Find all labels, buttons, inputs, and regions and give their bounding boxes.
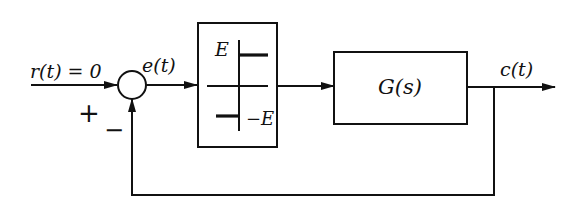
input-label: r(t) = 0 bbox=[30, 60, 102, 82]
control-block-diagram: r(t) = 0 + − e(t) E −E G(s) c(t) bbox=[0, 0, 575, 214]
feedback-line bbox=[132, 87, 494, 195]
output-signal: c(t) bbox=[467, 58, 555, 87]
plus-sign: + bbox=[78, 98, 100, 128]
feedback-path bbox=[132, 87, 494, 195]
error-signal: e(t) bbox=[142, 54, 197, 85]
upper-level-label: E bbox=[214, 38, 229, 60]
minus-sign: − bbox=[104, 116, 124, 144]
input-signal: r(t) = 0 bbox=[30, 60, 117, 85]
error-label: e(t) bbox=[142, 54, 176, 76]
lower-level-label: −E bbox=[246, 108, 274, 129]
output-label: c(t) bbox=[500, 58, 533, 80]
nonlinear-block: E −E bbox=[198, 23, 277, 147]
plant-label: G(s) bbox=[378, 75, 422, 99]
plant-block: G(s) bbox=[334, 52, 467, 124]
